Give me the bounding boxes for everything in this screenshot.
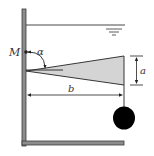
vertical-wall [22,9,26,146]
angle-label: α [37,46,44,57]
pivot-label: M [8,46,21,59]
height-label: a [140,65,146,76]
angle-arrowhead-icon [27,51,31,54]
arrow-left-icon [27,93,31,96]
arrow-up-icon [135,57,138,61]
bottom-floor [22,141,124,145]
water-level-symbol-icon [106,29,122,35]
hydrostatic-gate-diagram: M α a b [0,0,154,156]
arrow-right-icon [119,93,123,96]
hanging-ball [113,107,135,130]
triangular-gate [26,56,124,85]
length-label: b [68,83,74,94]
arrow-down-icon [135,80,138,84]
